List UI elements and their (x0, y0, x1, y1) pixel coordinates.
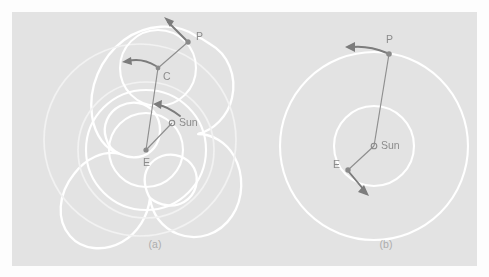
panel-caption-b: (b) (380, 238, 393, 250)
diagram-panel-background (12, 12, 477, 266)
epicycle-center-label-a: C (163, 70, 171, 82)
planet-label-b: P (386, 33, 393, 45)
earth-marker-b (345, 167, 350, 172)
planet-label-a: P (196, 30, 203, 42)
sun-label-b: Sun (381, 139, 400, 151)
earth-label-a: E (143, 156, 150, 168)
earth-marker-a (143, 147, 148, 152)
planet-marker-b (386, 51, 392, 57)
epicycle-diagram-svg: E Sun C P (a) Sun (0, 0, 489, 277)
figure-root: E Sun C P (a) Sun (0, 0, 489, 277)
planet-marker-a (185, 39, 190, 44)
epicycle-center-marker-a (156, 66, 161, 71)
earth-label-b: E (333, 158, 340, 170)
sun-label-a: Sun (179, 116, 198, 128)
panel-caption-a: (a) (149, 238, 162, 250)
